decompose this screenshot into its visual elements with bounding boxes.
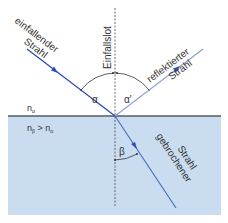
medium-top-label: nα: [27, 103, 35, 114]
angle-beta-label: β: [119, 146, 125, 157]
normal-label: Einfallslot: [102, 26, 113, 69]
refraction-diagram: einfallender Strahl Einfallslot reflekti…: [0, 0, 228, 223]
angle-alpha-arc: [81, 73, 115, 90]
angle-alpha-prime-label: α': [124, 94, 132, 105]
medium-bottom-label: nβ > nα: [27, 123, 53, 134]
reflected-ray: [115, 49, 203, 116]
angle-alpha-label: α: [92, 94, 98, 105]
